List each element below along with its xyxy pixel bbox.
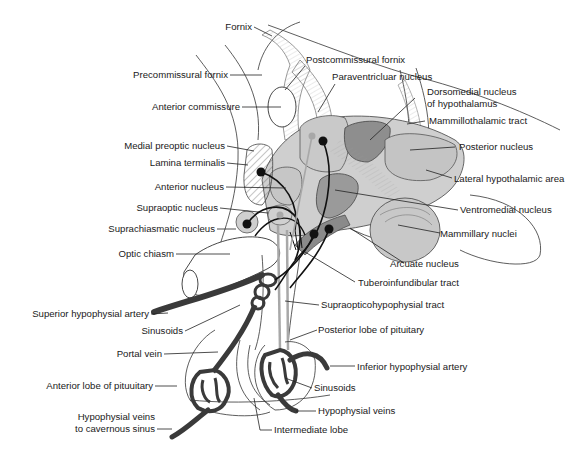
label-tuberoinfundibular-tract: Tuberoinfundibular tract [358, 277, 459, 288]
label-anterior-commissure: Anterior commissure [152, 101, 240, 112]
label-dorsomedial-nucleus-line1: Dorsomedial nucleus [427, 86, 517, 97]
label-lamina-terminalis: Lamina terminalis [150, 157, 225, 168]
label-arcuate-nucleus: Arcuate nucleus [390, 258, 459, 269]
label-lateral-hypothalamic-area: Lateral hypothalamic area [454, 173, 565, 184]
label-anterior-lobe: Anterior lobe of pituuitary [46, 380, 153, 391]
label-portal-vein: Portal vein [117, 348, 162, 359]
label-inferior-hypophysial-artery: Inferior hypophysial artery [357, 361, 468, 372]
label-suprachiasmatic-nucleus: Suprachiasmatic nucleus [108, 223, 215, 234]
label-posterior-lobe: Posterior lobe of pituitary [318, 324, 424, 335]
hypothalamus-pituitary-diagram: Fornix Precommissural fornix Anterior co… [0, 0, 587, 454]
label-supraoptic-nucleus: Supraoptic nucleus [136, 202, 218, 213]
label-mammillothalamic-tract: Mammillothalamic tract [429, 115, 527, 126]
label-dorsomedial-nucleus-line2: of hypothalamus [427, 98, 498, 109]
label-intermediate-lobe: Intermediate lobe [274, 424, 348, 435]
anterior-sinusoid-plexus [191, 370, 228, 411]
anterior-nucleus-shape [270, 167, 302, 205]
label-fornix: Fornix [225, 21, 252, 32]
label-hypophysial-veins-right: Hypophysial veins [318, 405, 396, 416]
label-postcommissural-fornix: Postcommissural fornix [306, 54, 405, 65]
label-hypophysial-veins-left-line1: Hypophysial veins [78, 411, 156, 422]
label-sinusoids-left: Sinusoids [141, 325, 183, 336]
label-posterior-nucleus: Posterior nucleus [459, 141, 533, 152]
diagram-svg: Fornix Precommissural fornix Anterior co… [0, 0, 587, 454]
label-precommissural-fornix: Precommissural fornix [133, 69, 228, 80]
label-sinusoids-right: Sinusoids [314, 382, 356, 393]
label-paraventricular-nucleus: Paraventricluar nucleus [332, 71, 432, 82]
intermediate-lobe-outline [237, 340, 260, 410]
portal-circulation [154, 274, 327, 437]
label-superior-hypophysial-artery: Superior hypophysial artery [32, 308, 149, 319]
hypophysial-veins-left-vessel [172, 410, 208, 437]
label-optic-chiasm: Optic chiasm [119, 248, 174, 259]
hypophysial-veins-right-vessel [278, 395, 296, 411]
label-mammillary-nuclei: Mammillary nuclei [440, 228, 517, 239]
label-hypophysial-veins-left-line2: to cavernous sinus [75, 423, 155, 434]
label-anterior-nucleus: Anterior nucleus [155, 181, 225, 192]
label-ventromedial-nucleus: Ventromedial nucleus [460, 204, 552, 215]
label-medial-preoptic-nucleus: Medial preoptic nucleus [124, 140, 225, 151]
label-supraopticohypophysial-tract: Supraopticohypophysial tract [321, 299, 445, 310]
